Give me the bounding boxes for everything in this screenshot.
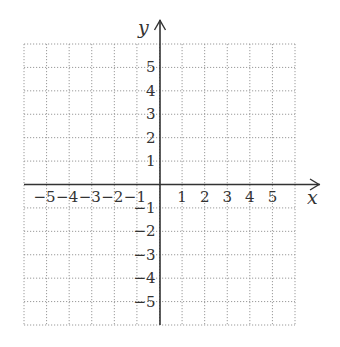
y-tick-label: 1 — [146, 152, 156, 170]
y-tick-label: −4 — [133, 269, 155, 287]
y-tick-label: −3 — [133, 246, 155, 264]
x-tick-label: 3 — [222, 188, 232, 206]
x-tick-label: −3 — [79, 188, 101, 206]
x-tick-label: 1 — [177, 188, 187, 206]
y-tick-label: 2 — [146, 129, 156, 147]
y-tick-label: 3 — [146, 105, 156, 123]
x-tick-label: 5 — [268, 188, 278, 206]
y-tick-label: −1 — [133, 199, 155, 217]
y-tick-label: 4 — [146, 82, 156, 100]
x-tick-label: −5 — [34, 188, 56, 206]
y-tick-label: −5 — [133, 293, 155, 311]
y-axis-label: y — [137, 16, 149, 38]
x-tick-label: −2 — [101, 188, 123, 206]
x-tick-label: 4 — [245, 188, 255, 206]
x-tick-label: 2 — [200, 188, 210, 206]
coordinate-plane: x y −5−4−3−2−11234554321−1−2−3−4−5 — [0, 0, 340, 347]
axes — [24, 20, 320, 325]
y-tick-label: −2 — [133, 222, 155, 240]
x-axis-label: x — [307, 186, 318, 208]
y-tick-label: 5 — [146, 58, 156, 76]
x-tick-label: −4 — [56, 188, 78, 206]
